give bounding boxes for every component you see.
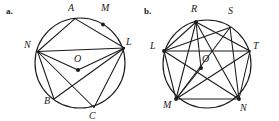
- chord-TN: [239, 51, 250, 99]
- geometry-figure: a.OAMNLBCb.ORSLTMN: [0, 0, 279, 121]
- chord-NL: [38, 48, 125, 52]
- chord-LO: [78, 48, 125, 70]
- vertex-label-L: L: [125, 36, 132, 47]
- vertex-dot-L: [162, 49, 166, 53]
- vertex-label-S: S: [228, 5, 233, 16]
- vertex-label-T: T: [253, 40, 260, 51]
- center-point-dot: [76, 68, 80, 72]
- vertex-label-A: A: [67, 2, 75, 13]
- panel-tag-label: b.: [144, 6, 151, 16]
- center-label-O: O: [74, 53, 81, 64]
- panel-a: a.OAMNLBC: [6, 2, 132, 121]
- vertex-dot-R: [194, 20, 198, 24]
- vertex-label-N: N: [23, 39, 32, 50]
- vertex-label-L: L: [149, 40, 156, 51]
- vertex-label-M: M: [100, 2, 110, 13]
- chord-NO: [38, 52, 79, 71]
- chord-LR: [164, 22, 196, 51]
- vertex-label-C: C: [89, 110, 96, 121]
- vertex-dot-N: [237, 97, 241, 101]
- panel-tag-label: a.: [6, 6, 13, 16]
- vertex-label-B: B: [44, 95, 50, 106]
- chord-LB: [54, 48, 125, 99]
- vertex-label-R: R: [190, 3, 197, 14]
- vertex-label-M: M: [162, 99, 172, 110]
- chord-AN: [38, 19, 76, 52]
- vertex-dot-M: [174, 97, 178, 101]
- vertex-label-N: N: [239, 102, 248, 113]
- panel-b: b.ORSLTMN: [144, 3, 260, 113]
- vertex-dot-M: [101, 23, 105, 27]
- chord-LC: [94, 48, 125, 108]
- circle-outline: [163, 20, 251, 108]
- figure-canvas: a.OAMNLBCb.ORSLTMN: [0, 0, 279, 121]
- center-point-dot: [199, 66, 203, 70]
- chord-LM: [164, 51, 176, 99]
- center-label-O: O: [202, 53, 209, 64]
